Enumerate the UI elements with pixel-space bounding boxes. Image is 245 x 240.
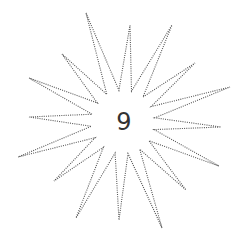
center-number-label: 9 bbox=[112, 107, 136, 137]
